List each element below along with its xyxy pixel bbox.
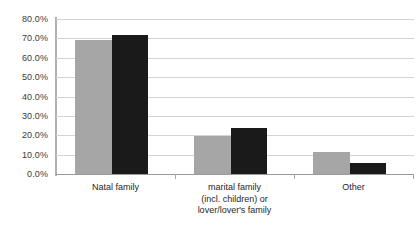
y-axis-tick-label: 40.0% <box>22 92 48 102</box>
bar-natal-family-series-2 <box>112 35 148 174</box>
y-axis-tick-label: 0.0% <box>27 169 48 179</box>
gridline-80 <box>56 19 414 20</box>
x-axis-label-line: (incl. children) or <box>175 194 294 206</box>
bar-other-series-1 <box>313 152 350 174</box>
x-axis-label-line: lover/lover's family <box>175 205 294 217</box>
bar-chart: 80.0% 70.0% 60.0% 50.0% 40.0% 30.0% 20.0… <box>0 0 420 229</box>
x-axis-label-natal-family: Natal family <box>56 182 175 194</box>
y-axis-tick-label: 50.0% <box>22 72 48 82</box>
x-axis-tick <box>413 174 414 179</box>
x-axis-tick <box>294 174 295 179</box>
y-axis-tick-label: 80.0% <box>22 14 48 24</box>
x-axis-label-line: Natal family <box>56 182 175 194</box>
y-axis-tick-label: 70.0% <box>22 33 48 43</box>
y-axis-labels: 80.0% 70.0% 60.0% 50.0% 40.0% 30.0% 20.0… <box>0 19 52 174</box>
y-axis-tick-label: 20.0% <box>22 130 48 140</box>
plot-area <box>56 19 414 174</box>
bar-marital-family-series-1 <box>194 136 231 174</box>
x-axis-labels: Natal family marital family (incl. child… <box>56 182 414 228</box>
x-axis-tick <box>175 174 176 179</box>
x-axis-label-line: marital family <box>175 182 294 194</box>
x-axis-label-other: Other <box>294 182 413 194</box>
x-axis-label-line: Other <box>294 182 413 194</box>
bar-other-series-2 <box>350 163 386 174</box>
bar-marital-family-series-2 <box>231 128 267 174</box>
y-axis-tick-label: 60.0% <box>22 53 48 63</box>
bar-natal-family-series-1 <box>75 40 112 174</box>
y-axis-tick-label: 30.0% <box>22 111 48 121</box>
x-axis-baseline <box>56 174 414 175</box>
x-axis-label-marital-family: marital family (incl. children) or lover… <box>175 182 294 217</box>
y-axis-tick-label: 10.0% <box>22 150 48 160</box>
